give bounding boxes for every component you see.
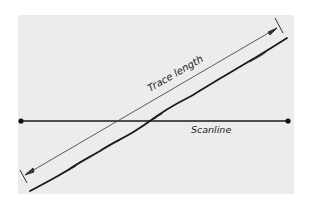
scanline-diagram: Trace length Scanline xyxy=(0,0,312,208)
scanline-end-dot xyxy=(285,118,290,123)
scanline-label: Scanline xyxy=(191,124,231,135)
scanline-start-dot xyxy=(18,118,23,123)
